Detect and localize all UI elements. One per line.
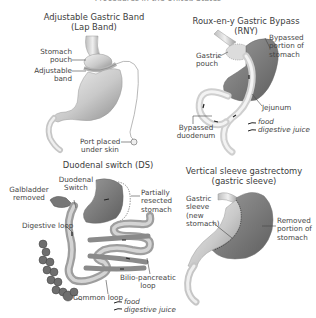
label-partially-resected: Partially resected stomach	[141, 189, 172, 214]
legend-digestive-juice: digestive juice	[258, 126, 310, 134]
rny-title-line1: Roux-en-y Gastric Bypass	[184, 16, 308, 26]
label-text: duodenum	[176, 132, 216, 140]
label-text: pouch	[196, 60, 221, 68]
ds-title: Duodenal switch (DS)	[58, 160, 158, 170]
sleeve-title: Vertical sleeve gastrectomy (gastric sle…	[180, 166, 308, 186]
label-text: band	[28, 75, 72, 83]
label-bilio-pancreatic: Bilio-pancreatic loop	[120, 274, 176, 291]
sleeve-title-line2: (gastric sleeve)	[180, 176, 308, 186]
label-text: under skin	[80, 146, 120, 154]
label-duodenal-switch: Duodenal Switch	[56, 176, 96, 193]
label-adjustable-band: Adjustable band	[28, 67, 72, 84]
label-removed-portion: Removed portion of stomach	[277, 217, 312, 242]
label-text: removed	[6, 194, 52, 202]
lap-band-title-line1: Adjustable Gastric Band	[38, 12, 150, 22]
label-stomach-pouch: Stomach pouch	[30, 48, 72, 65]
label-text: stomach	[269, 51, 304, 59]
sleeve-title-line1: Vertical sleeve gastrectomy	[180, 166, 308, 176]
label-gastric-pouch: Gastric pouch	[196, 52, 221, 69]
label-gallbladder: Galbladder removed	[6, 186, 52, 203]
label-text: stomach	[141, 206, 172, 214]
lap-band-title: Adjustable Gastric Band (Lap Band)	[38, 12, 150, 32]
label-common-loop: Common loop	[73, 294, 123, 302]
label-bypassed-stomach: Bypassed portion of stomach	[269, 34, 304, 59]
label-gastric-sleeve: Gastric sleeve (new stomach)	[186, 195, 220, 229]
label-bypassed-duodenum: Bypassed duodenum	[176, 124, 216, 141]
label-jejunum: Jejunum	[262, 104, 291, 112]
label-text: Common loop	[73, 293, 123, 302]
lap-band-title-line2: (Lap Band)	[38, 22, 150, 32]
legend-digestive-juice: digestive juice	[124, 306, 176, 314]
label-text: Digestive loop	[22, 221, 73, 230]
label-text: stomach	[277, 234, 312, 242]
label-text: digestive juice	[124, 305, 176, 314]
label-digestive-loop: Digestive loop	[22, 222, 73, 230]
label-text: loop	[120, 282, 176, 290]
label-text: stomach)	[186, 220, 220, 228]
label-text: Switch	[56, 184, 96, 192]
label-text: digestive juice	[258, 125, 310, 134]
label-text: pouch	[30, 56, 72, 64]
ds-title-text: Duodenal switch (DS)	[58, 160, 158, 170]
label-text: Jejunum	[262, 103, 291, 112]
label-port: Port placed under skin	[80, 138, 120, 155]
